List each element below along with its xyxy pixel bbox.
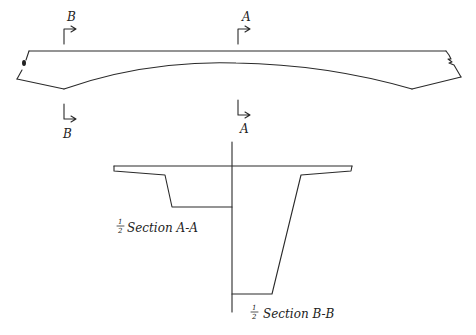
- section-mark-b-bottom-label: B: [62, 127, 72, 141]
- section-b-b-caption: Section B-B: [263, 307, 335, 321]
- left-end-break: [26, 51, 29, 60]
- section-a-a-fraction-den: 2: [117, 227, 123, 235]
- right-end-break: [446, 51, 461, 77]
- section-mark-a-top-icon: [238, 26, 250, 44]
- section-b-b-fraction-den: 2: [251, 313, 257, 321]
- left-end-mark-icon: [22, 60, 26, 66]
- section-mark-b-top-label: B: [66, 10, 76, 24]
- section-b-b-fraction: 1: [252, 304, 256, 312]
- section-a-a-outline: [114, 166, 232, 207]
- section-mark-a-bottom-label: A: [239, 122, 249, 136]
- section-mark-a-top-label: A: [241, 10, 251, 24]
- section-a-a-fraction: 1: [118, 218, 122, 226]
- section-b-b-outline: [232, 166, 352, 294]
- section-mark-b-bottom-icon: [64, 104, 76, 122]
- elevation-soffit-left: [17, 79, 64, 89]
- elevation-soffit-right: [412, 77, 461, 89]
- girder-diagram: B B A A 1 2 Section A-A 1 2 Section B-B: [0, 0, 476, 335]
- left-end-lower: [17, 70, 22, 79]
- section-mark-b-top-icon: [64, 26, 76, 44]
- section-a-a-caption: Section A-A: [127, 221, 198, 235]
- elevation-soffit-curve: [64, 63, 412, 89]
- section-mark-a-bottom-icon: [238, 100, 250, 118]
